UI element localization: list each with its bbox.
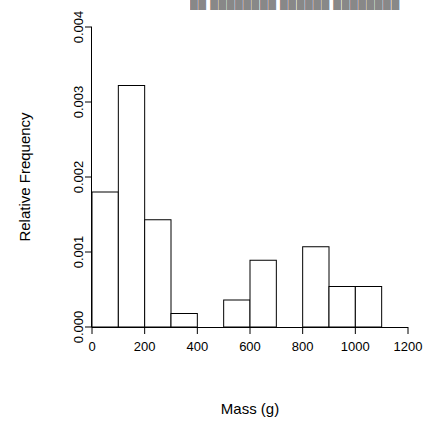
histogram-plot: 0200400600800100012000.0000.0010.0020.00… (0, 0, 428, 428)
histogram-bar (303, 247, 329, 327)
histogram-bar (224, 300, 250, 327)
chart-container: ██ ████████ ██████ ████████ 020040060080… (0, 0, 428, 428)
histogram-bar (92, 192, 118, 327)
y-tick-label: 0.003 (71, 86, 86, 119)
histogram-bar (145, 220, 171, 327)
x-axis-title: Mass (g) (221, 400, 279, 417)
x-tick-label: 0 (88, 339, 95, 354)
x-tick-label: 400 (186, 339, 208, 354)
histogram-bar (250, 260, 276, 327)
y-axis-title: Relative Frequency (16, 112, 33, 242)
histogram-bar (329, 287, 355, 328)
x-tick-label: 1000 (341, 339, 370, 354)
histogram-bar (355, 287, 381, 328)
x-tick-label: 200 (134, 339, 156, 354)
x-tick-label: 800 (292, 339, 314, 354)
x-tick-label: 600 (239, 339, 261, 354)
y-tick-label: 0.004 (71, 11, 86, 44)
x-tick-label: 1200 (394, 339, 423, 354)
y-tick-label: 0.002 (71, 161, 86, 194)
y-tick-label: 0.001 (71, 236, 86, 269)
histogram-bar (171, 314, 197, 328)
y-tick-label: 0.000 (71, 311, 86, 344)
histogram-bar (118, 86, 144, 328)
